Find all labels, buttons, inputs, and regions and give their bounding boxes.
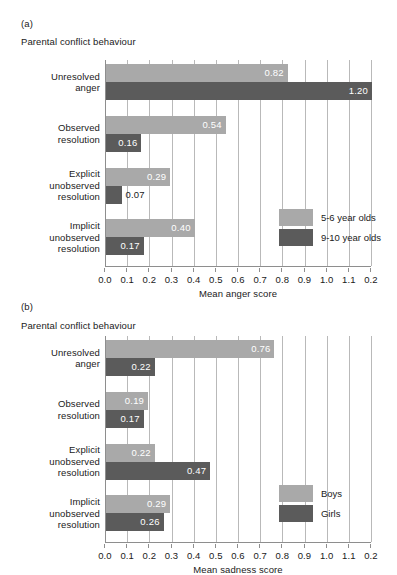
- category-label: Explicit unobserved resolution: [8, 168, 100, 203]
- axis-tick: [104, 544, 105, 548]
- bar-value-label: 0.22: [125, 358, 151, 376]
- axis-tick: [370, 544, 371, 548]
- bar-value-label: 0.47: [180, 462, 206, 480]
- axis-tick: [259, 544, 260, 548]
- bar-value-label: 0.40: [165, 219, 191, 237]
- panel-a: (a) Parental conflict behaviour 0.821.20…: [0, 0, 397, 293]
- legend-label: Girls: [321, 505, 341, 522]
- legend-swatch: [279, 505, 313, 522]
- axis-tick: [370, 268, 371, 272]
- plot-area-a: 0.821.200.540.160.290.070.400.175-6 year…: [105, 60, 371, 267]
- axis-tick: [193, 544, 194, 548]
- category-label: Observed resolution: [8, 398, 100, 421]
- axis-tick: [326, 544, 327, 548]
- category-label: Implicit unobserved resolution: [8, 496, 100, 531]
- panel-a-subtitle: Parental conflict behaviour: [21, 36, 136, 47]
- bar: [106, 82, 372, 100]
- legend-label: Boys: [321, 485, 342, 502]
- legend-swatch: [279, 229, 313, 246]
- axis-tick: [171, 544, 172, 548]
- axis-tick: [348, 544, 349, 548]
- plot-area-b: 0.760.220.190.170.220.470.290.26BoysGirl…: [105, 336, 371, 543]
- bar-value-label: 0.17: [114, 237, 140, 255]
- bar-value-label: 0.54: [196, 116, 222, 134]
- axis-tick: [281, 268, 282, 272]
- bar-value-label: 0.82: [258, 64, 284, 82]
- axis-tick: [215, 268, 216, 272]
- axis-tick: [171, 268, 172, 272]
- panel-b-subtitle: Parental conflict behaviour: [21, 320, 136, 331]
- panel-b-tag: (b): [21, 301, 33, 312]
- gridline: [260, 336, 261, 542]
- gridline: [172, 336, 173, 542]
- gridline: [216, 336, 217, 542]
- axis-tick: [304, 268, 305, 272]
- legend-label: 5-6 year olds: [321, 209, 376, 226]
- category-label: Unresolved anger: [8, 71, 100, 94]
- axis-tick: [304, 544, 305, 548]
- gridline: [238, 336, 239, 542]
- category-label: Unresolved anger: [8, 347, 100, 370]
- bar-value-label: 0.19: [118, 392, 144, 410]
- axis-tick: [193, 268, 194, 272]
- panel-a-tag: (a): [21, 18, 33, 29]
- category-label: Explicit unobserved resolution: [8, 444, 100, 479]
- bar-value-label: 0.29: [140, 495, 166, 513]
- gridline: [371, 336, 372, 542]
- gridline: [194, 336, 195, 542]
- bar-value-label: 1.20: [342, 82, 368, 100]
- x-axis-title: Mean sadness score: [85, 564, 391, 575]
- bar-value-label: 0.16: [111, 134, 137, 152]
- bar-value-label: 0.22: [125, 444, 151, 462]
- axis-tick-label: 0.2: [357, 274, 385, 285]
- bar-value-label: 0.17: [114, 410, 140, 428]
- panel-b: (b) Parental conflict behaviour 0.760.22…: [0, 293, 397, 575]
- bar-value-label: 0.26: [134, 513, 160, 531]
- axis-tick: [126, 544, 127, 548]
- axis-tick: [148, 544, 149, 548]
- axis-tick: [237, 544, 238, 548]
- bar-value-label: 0.07: [126, 186, 145, 204]
- axis-tick-label: 0.2: [357, 550, 385, 561]
- gridline: [349, 336, 350, 542]
- legend-swatch: [279, 485, 313, 502]
- axis-tick: [348, 268, 349, 272]
- legend-swatch: [279, 209, 313, 226]
- bar-value-label: 0.29: [140, 168, 166, 186]
- axis-tick: [104, 268, 105, 272]
- category-label: Observed resolution: [8, 122, 100, 145]
- bar: [106, 186, 122, 204]
- axis-tick: [215, 544, 216, 548]
- axis-tick: [126, 268, 127, 272]
- axis-tick: [237, 268, 238, 272]
- axis-tick: [148, 268, 149, 272]
- axis-tick: [326, 268, 327, 272]
- bar-value-label: 0.76: [244, 340, 270, 358]
- category-label: Implicit unobserved resolution: [8, 220, 100, 255]
- axis-tick: [259, 268, 260, 272]
- axis-tick: [281, 544, 282, 548]
- legend-label: 9-10 year olds: [321, 229, 381, 246]
